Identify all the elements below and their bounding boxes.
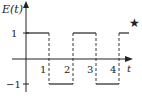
y-tick-label-neg1: −1: [6, 79, 21, 90]
x-tick-label-1: 1: [40, 64, 46, 75]
y-axis-arrow-icon: [23, 1, 29, 8]
square-wave-chart: E(t) t 1 −1 1 2 3 4 ★: [0, 0, 142, 100]
x-tick-label-4: 4: [110, 64, 116, 75]
x-axis-label: t: [127, 63, 132, 74]
x-axis-arrow-icon: [125, 56, 133, 62]
x-tick-label-3: 3: [87, 64, 93, 75]
y-axis-label: E(t): [1, 3, 23, 16]
star-icon: ★: [129, 16, 140, 30]
y-tick-label-1: 1: [11, 28, 17, 39]
x-tick-label-2: 2: [64, 64, 70, 75]
